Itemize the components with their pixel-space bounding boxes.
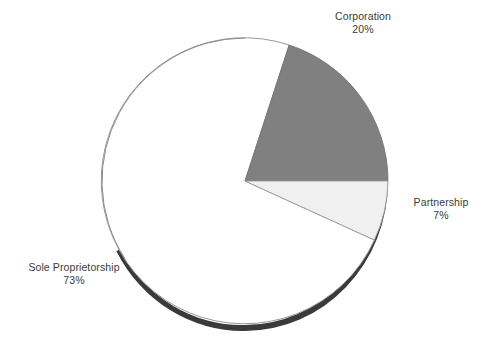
pie-chart-canvas <box>0 0 487 350</box>
pie-label-partnership-name: Partnership <box>398 196 484 209</box>
pie-label-sole-proprietorship: Sole Proprietorship 73% <box>8 261 140 287</box>
pie-label-sole-proprietorship-value: 73% <box>8 274 140 287</box>
pie-label-corporation-name: Corporation <box>293 10 433 23</box>
pie-label-partnership-value: 7% <box>398 209 484 222</box>
pie-label-corporation-value: 20% <box>293 23 433 36</box>
pie-label-partnership: Partnership 7% <box>398 196 484 222</box>
pie-label-corporation: Corporation 20% <box>293 10 433 36</box>
pie-label-sole-proprietorship-name: Sole Proprietorship <box>8 261 140 274</box>
pie-chart: Corporation 20% Partnership 7% Sole Prop… <box>0 0 487 350</box>
